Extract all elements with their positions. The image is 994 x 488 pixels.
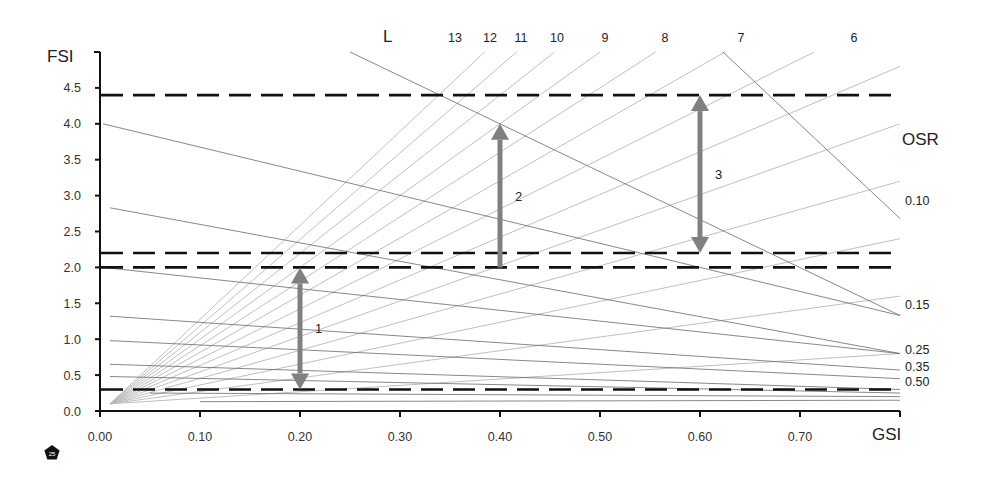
layer-label: 12	[483, 31, 497, 45]
y-axis-title: FSI	[47, 47, 73, 66]
osr-title: OSR	[902, 130, 939, 149]
y-tick-label: 0.0	[64, 405, 81, 419]
layer-line	[110, 52, 725, 404]
x-tick-label: 0.00	[88, 430, 112, 444]
osr-label: 0.15	[905, 298, 929, 312]
layers-title: L	[383, 27, 392, 46]
layer-line	[110, 52, 517, 404]
layer-label: 10	[550, 31, 564, 45]
x-tick-label: 0.30	[388, 430, 412, 444]
osr-line	[150, 393, 900, 397]
layer-line	[110, 52, 814, 404]
osr-line	[200, 400, 900, 401]
layer-label: 8	[662, 31, 669, 45]
x-tick-label: 0.40	[488, 430, 512, 444]
axes	[94, 52, 900, 417]
layer-line	[110, 66, 900, 403]
layer-line	[110, 52, 656, 404]
y-tick-label: 4.5	[64, 81, 81, 95]
y-tick-label: 2.0	[64, 261, 81, 275]
x-tick-label: 0.60	[688, 430, 712, 444]
y-tick-label: 3.0	[64, 189, 81, 203]
layer-label: 6	[851, 31, 858, 45]
x-tick-label: 0.10	[188, 430, 212, 444]
x-axis-title: GSI	[872, 425, 901, 444]
arrow-head-up	[491, 124, 509, 140]
arrow-head-down	[691, 237, 709, 253]
layer-label: 13	[448, 31, 462, 45]
page-badge: 25	[44, 445, 59, 460]
layer-label: 11	[515, 31, 528, 45]
osr-label: 0.50	[905, 375, 929, 389]
osr-line	[110, 364, 900, 389]
badge-label: 25	[49, 451, 56, 457]
arrow-head-down	[291, 373, 309, 389]
labels: FSI GSI L OSR 1312111098760.100.150.250.…	[47, 27, 939, 444]
x-tick-label: 0.20	[288, 430, 312, 444]
layer-lines	[110, 52, 900, 404]
arrow-label: 2	[515, 189, 522, 204]
spacemate-chart: FSI GSI L OSR 1312111098760.100.150.250.…	[0, 0, 994, 488]
y-tick-label: 2.5	[64, 225, 81, 239]
y-tick-label: 0.5	[64, 369, 81, 383]
x-tick-label: 0.70	[788, 430, 812, 444]
osr-label: 0.35	[905, 360, 929, 374]
osr-label: 0.10	[905, 194, 929, 208]
arrow-label: 1	[315, 321, 322, 336]
osr-line	[350, 52, 900, 316]
arrow-head-up	[291, 267, 309, 283]
osr-label: 0.25	[905, 343, 929, 357]
arrow-label: 3	[715, 167, 722, 182]
annotation-arrows	[291, 95, 709, 389]
arrow-head-up	[691, 95, 709, 111]
osr-line	[723, 52, 900, 219]
y-tick-label: 1.5	[64, 297, 81, 311]
x-tick-label: 0.50	[588, 430, 612, 444]
layer-line	[110, 52, 600, 404]
osr-line	[110, 341, 900, 379]
y-tick-label: 3.5	[64, 153, 81, 167]
layer-label: 9	[602, 31, 609, 45]
y-tick-label: 1.0	[64, 333, 81, 347]
y-tick-label: 4.0	[64, 117, 81, 131]
layer-label: 7	[738, 31, 745, 45]
layer-line	[110, 296, 900, 404]
